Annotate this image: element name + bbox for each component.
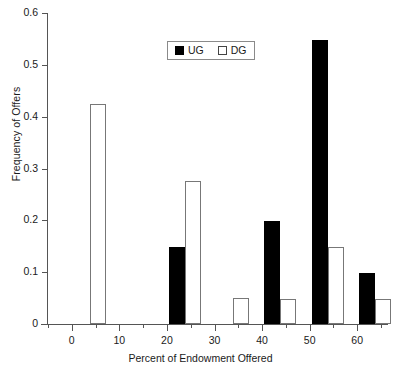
y-tick-label: 0.1 (8, 265, 38, 277)
x-tick-mark (262, 324, 263, 331)
bar-dg-0 (90, 104, 106, 324)
legend-label-ug: UG (188, 45, 204, 56)
x-tick-label: 0 (52, 334, 92, 346)
y-tick-label: 0.5 (8, 58, 38, 70)
legend-swatch-open-square-icon (218, 46, 227, 55)
x-tick-mark-minor (48, 324, 49, 328)
bar-dg-60 (375, 299, 391, 324)
x-tick-mark-group (0, 324, 401, 334)
x-tick-mark (72, 324, 73, 331)
bar-ug-60 (359, 273, 375, 324)
x-tick-mark-minor (286, 324, 287, 328)
legend-item-dg: DG (218, 45, 247, 56)
x-tick-mark (310, 324, 311, 331)
x-tick-label: 40 (242, 334, 282, 346)
x-axis-title: Percent of Endowment Offered (0, 352, 401, 364)
bar-dg-50 (328, 247, 344, 324)
x-tick-mark-minor (191, 324, 192, 328)
legend-swatch-filled-square-icon (175, 46, 184, 55)
bar-dg-40 (280, 299, 296, 324)
x-tick-mark-minor (96, 324, 97, 328)
bar-ug-20 (169, 247, 185, 324)
x-tick-mark (167, 324, 168, 331)
y-tick-label: 0.4 (8, 110, 38, 122)
y-tick-label-group: 00.10.20.30.40.50.6 (8, 0, 38, 373)
plot-area (48, 13, 381, 324)
bar-ug-50 (312, 40, 328, 324)
bar-dg-30 (233, 298, 249, 324)
bar-dg-20 (185, 181, 201, 324)
x-tick-mark-minor (238, 324, 239, 328)
x-tick-label-group: 0102030405060 (0, 334, 401, 350)
x-tick-mark-minor (333, 324, 334, 328)
y-tick-label: 0.3 (8, 162, 38, 174)
bar-ug-40 (264, 221, 280, 324)
x-tick-label: 60 (337, 334, 377, 346)
chart-legend: UG DG (167, 41, 255, 60)
y-tick-label: 0.6 (8, 6, 38, 18)
x-tick-mark (357, 324, 358, 331)
bar-chart: Frequency of Offers 00.10.20.30.40.50.6 … (0, 0, 401, 373)
x-tick-label: 50 (290, 334, 330, 346)
x-tick-mark-minor (143, 324, 144, 328)
x-tick-mark (215, 324, 216, 331)
x-tick-mark (119, 324, 120, 331)
x-tick-mark-minor (381, 324, 382, 328)
x-tick-label: 30 (195, 334, 235, 346)
x-tick-label: 10 (99, 334, 139, 346)
y-tick-label: 0.2 (8, 213, 38, 225)
x-tick-label: 20 (147, 334, 187, 346)
legend-item-ug: UG (175, 45, 204, 56)
legend-label-dg: DG (231, 45, 247, 56)
